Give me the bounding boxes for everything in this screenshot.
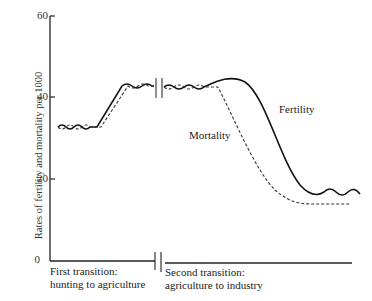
chart-canvas xyxy=(0,0,372,301)
first-transition-line1: First transition: xyxy=(50,265,145,278)
mortality-label: Mortality xyxy=(189,129,231,141)
second-transition-caption: Second transition: agriculture to indust… xyxy=(165,266,263,292)
y-axis-label: Rates of fertility and mortality per 100… xyxy=(33,56,44,256)
first-transition-line2: hunting to agriculture xyxy=(50,278,145,291)
first-transition-caption: First transition: hunting to agriculture xyxy=(50,265,145,291)
second-transition-line1: Second transition: xyxy=(165,266,263,279)
mortality-line xyxy=(58,84,350,204)
fertility-label: Fertility xyxy=(279,103,314,115)
y-tick-label-60: 60 xyxy=(26,9,48,21)
demographic-transition-chart: 60 40 20 0 Rates of fertility and mortal… xyxy=(0,0,372,301)
second-transition-line2: agriculture to industry xyxy=(165,279,263,292)
